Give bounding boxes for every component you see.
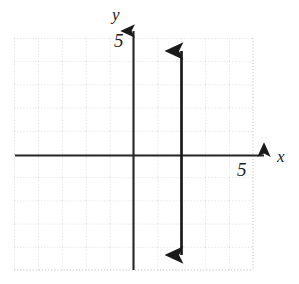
y-axis-tick-label-5: 5 <box>114 31 124 50</box>
y-axis-label: y <box>112 6 120 23</box>
x-axis-label: x <box>277 148 285 165</box>
graph-figure: y x 5 5 <box>0 0 299 284</box>
coordinate-plane-svg <box>0 0 299 284</box>
x-axis-tick-label-5: 5 <box>237 160 247 179</box>
